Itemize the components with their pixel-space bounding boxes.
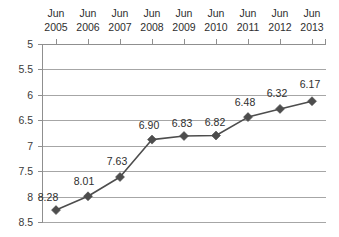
chart-canvas: 5 5.5 6 6.5 7 7.5 8 8.5 Jun 2005 Jun 200… — [0, 0, 339, 237]
x-tick-label-4-year: 2009 — [172, 21, 196, 33]
x-tick-label-2-year: 2007 — [108, 21, 132, 33]
data-label-5: 6.82 — [205, 116, 226, 128]
data-point-labels: 8.28 8.01 7.63 6.90 6.83 6.82 6.48 6.32 … — [38, 78, 321, 203]
x-tick-label-7-month: Jun — [272, 7, 289, 19]
x-tick-label-0-month: Jun — [48, 7, 65, 19]
data-label-0: 8.28 — [38, 191, 59, 203]
data-label-2: 7.63 — [107, 155, 128, 167]
data-point-8[interactable] — [308, 97, 317, 106]
data-label-8: 6.17 — [300, 78, 321, 90]
x-tick-label-8-month: Jun — [304, 7, 321, 19]
y-tick-label-6: 8 — [27, 191, 33, 203]
data-point-4[interactable] — [180, 132, 189, 141]
y-tick-label-4: 7 — [27, 140, 33, 152]
data-label-1: 8.01 — [74, 175, 95, 187]
y-axis-tick-labels: 5 5.5 6 6.5 7 7.5 8 8.5 — [18, 38, 33, 228]
data-label-7: 6.32 — [267, 87, 288, 99]
x-tick-label-4-month: Jun — [176, 7, 193, 19]
x-tick-label-6-month: Jun — [240, 7, 257, 19]
x-tick-label-3-month: Jun — [144, 7, 161, 19]
x-tick-label-8-year: 2013 — [300, 21, 324, 33]
y-tick-label-1: 5.5 — [18, 63, 33, 75]
x-tick-label-7-year: 2012 — [268, 21, 292, 33]
data-label-6: 6.48 — [235, 96, 256, 108]
data-point-0[interactable] — [52, 206, 61, 215]
x-tick-label-1-month: Jun — [80, 7, 97, 19]
x-tick-label-5-year: 2010 — [204, 21, 228, 33]
x-tick-label-0-year: 2005 — [44, 21, 68, 33]
y-tick-label-2: 6 — [27, 89, 33, 101]
y-tick-label-5: 7.5 — [18, 165, 33, 177]
x-tick-label-3-year: 2008 — [140, 21, 164, 33]
x-axis-ticks — [57, 39, 326, 45]
data-point-7[interactable] — [276, 104, 285, 113]
x-tick-label-5-month: Jun — [208, 7, 225, 19]
y-tick-label-0: 5 — [27, 38, 33, 50]
data-point-5[interactable] — [212, 131, 221, 140]
line-chart: 5 5.5 6 6.5 7 7.5 8 8.5 Jun 2005 Jun 200… — [0, 0, 339, 237]
x-tick-label-6-year: 2011 — [237, 21, 260, 33]
data-label-4: 6.83 — [172, 117, 193, 129]
x-axis-tick-labels: Jun 2005 Jun 2006 Jun 2007 Jun 2008 Jun … — [44, 7, 324, 33]
series-markers — [52, 97, 317, 215]
y-tick-label-7: 8.5 — [18, 216, 33, 228]
x-tick-label-2-month: Jun — [112, 7, 129, 19]
data-label-3: 6.90 — [139, 119, 160, 131]
data-point-1[interactable] — [84, 192, 93, 201]
y-tick-label-3: 6.5 — [18, 114, 33, 126]
x-tick-label-1-year: 2006 — [76, 21, 100, 33]
